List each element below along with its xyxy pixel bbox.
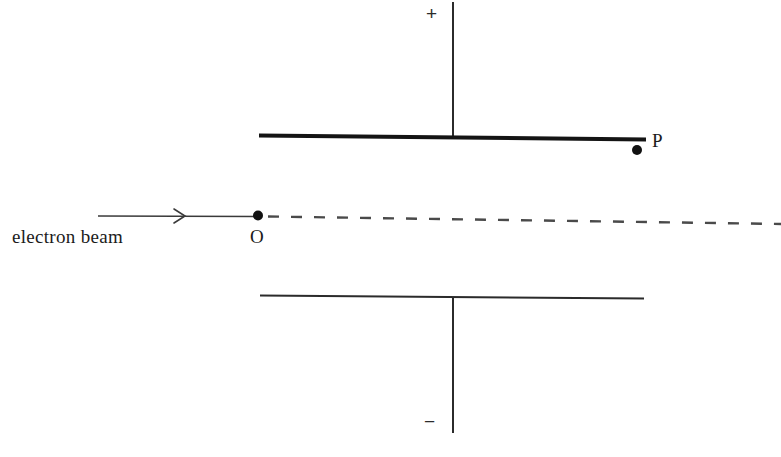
dashed-trajectory-line (268, 217, 781, 225)
top-plate (259, 136, 646, 140)
point-o-label: O (250, 227, 264, 246)
electron-beam-line (98, 216, 262, 217)
negative-terminal-label: − (424, 412, 435, 431)
point-o-dot (253, 211, 263, 221)
electron-beam-label: electron beam (12, 227, 123, 246)
point-p-label: P (652, 131, 663, 150)
positive-terminal-label: + (426, 4, 437, 23)
physics-diagram-canvas: + − P O electron beam (0, 0, 781, 457)
point-p-dot (632, 145, 642, 155)
